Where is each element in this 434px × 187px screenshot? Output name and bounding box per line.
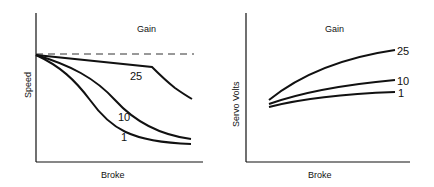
figure: Gain 25 10 1 Speed Broke Gain 25 10 1 Se… [0,0,434,187]
x-axis-label: Broke [101,170,125,180]
series-25-label: 25 [397,45,409,57]
series-25-line [36,55,192,99]
series-10-label: 10 [397,75,409,87]
y-axis-label: Speed [23,72,33,98]
series-1-label: 1 [121,131,127,143]
x-axis-label: Broke [308,170,332,180]
legend-title: Gain [325,24,344,34]
series-25-label: 25 [130,70,142,82]
series-1-label: 1 [398,87,404,99]
servo-volts-chart: Gain 25 10 1 Servo Volts Broke [231,13,410,180]
speed-chart: Gain 25 10 1 Speed Broke [23,13,203,180]
series-10-label: 10 [118,111,130,123]
y-axis-label: Servo Volts [231,81,241,127]
series-1-line [269,92,395,107]
legend-title: Gain [137,24,156,34]
